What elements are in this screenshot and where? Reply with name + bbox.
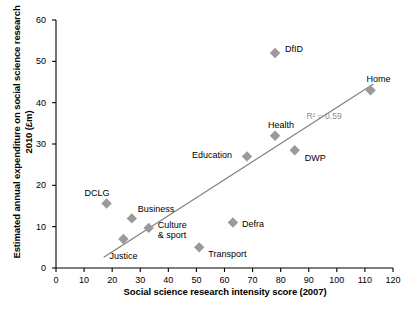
x-tick-label: 60 — [212, 275, 238, 285]
data-point-label: DWP — [305, 153, 326, 164]
trendline — [104, 84, 374, 257]
data-point-marker — [242, 151, 252, 161]
axis-lines — [56, 20, 393, 268]
data-point-marker — [194, 242, 204, 252]
x-tick-label: 120 — [380, 275, 406, 285]
x-tick-label: 20 — [99, 275, 125, 285]
y-tick-label: 20 — [24, 180, 46, 190]
r-squared-annotation: R² = 0.59 — [306, 111, 341, 121]
y-tick-label: 40 — [24, 98, 46, 108]
data-point-marker — [270, 131, 280, 141]
x-tick-label: 0 — [43, 275, 69, 285]
y-tick-label: 30 — [24, 139, 46, 149]
y-tick-label: 0 — [24, 263, 46, 273]
x-tick-label: 90 — [296, 275, 322, 285]
data-point-label: Health — [268, 120, 294, 131]
data-point-label: DCLG — [85, 188, 110, 199]
y-tick-label: 10 — [24, 222, 46, 232]
data-point-label: Defra — [242, 219, 264, 230]
data-point-label: Culture & sport — [158, 220, 187, 241]
data-point-marker — [290, 145, 300, 155]
data-point-label: Business — [138, 204, 175, 215]
data-point-label: Justice — [109, 251, 137, 262]
data-point-marker — [101, 198, 111, 208]
x-tick-label: 100 — [324, 275, 350, 285]
x-tick-label: 110 — [352, 275, 378, 285]
data-markers — [101, 48, 375, 253]
data-point-label: DfID — [285, 44, 303, 55]
data-point-marker — [228, 217, 238, 227]
x-tick-label: 30 — [127, 275, 153, 285]
x-tick-label: 70 — [240, 275, 266, 285]
data-point-label: Education — [192, 150, 232, 161]
y-tick-label: 60 — [24, 15, 46, 25]
data-point-marker — [270, 48, 280, 58]
data-point-marker — [127, 213, 137, 223]
scatter-chart: Estimated annual expenditure on social s… — [0, 0, 418, 310]
x-tick-label: 10 — [71, 275, 97, 285]
data-point-label: Home — [367, 74, 391, 85]
x-tick-label: 40 — [155, 275, 181, 285]
x-tick-label: 80 — [268, 275, 294, 285]
tick-marks — [52, 20, 393, 272]
y-tick-label: 50 — [24, 56, 46, 66]
data-point-marker — [143, 223, 153, 233]
x-tick-label: 50 — [183, 275, 209, 285]
data-point-label: Transport — [208, 249, 246, 260]
data-point-marker — [365, 85, 375, 95]
